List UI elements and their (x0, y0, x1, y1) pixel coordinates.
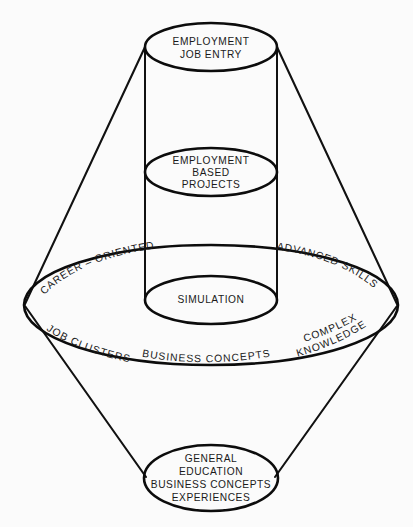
simulation-ellipse-group: SIMULATION (145, 276, 277, 324)
middle-ellipse-label-line2: BASED (192, 167, 229, 178)
middle-ellipse-label-line3: PROJECTS (182, 179, 241, 190)
band-label-career-oriented-text: CAREER – ORIENTED (38, 239, 155, 296)
band-label-business-concepts: BUSINESS CONCEPTS (142, 347, 272, 364)
top-ellipse-label-line2: JOB ENTRY (180, 49, 242, 60)
middle-ellipse-group: EMPLOYMENT BASED PROJECTS (145, 148, 277, 196)
bottom-ellipse-label-line4: EXPERIENCES (172, 492, 251, 503)
diagram-canvas: EMPLOYMENT JOB ENTRY EMPLOYMENT BASED PR… (0, 0, 413, 527)
top-ellipse-group: EMPLOYMENT JOB ENTRY (145, 23, 277, 71)
band-label-job-clusters: JOB CLUSTERS (45, 322, 132, 364)
band-label-business-concepts-text: BUSINESS CONCEPTS (142, 347, 272, 364)
middle-ellipse-label-line1: EMPLOYMENT (173, 155, 250, 166)
band-label-advanced-skills-text: ADVANCED SKILLS (276, 240, 380, 290)
bottom-ellipse-group: GENERAL EDUCATION BUSINESS CONCEPTS EXPE… (144, 445, 278, 511)
band-label-career-oriented: CAREER – ORIENTED (38, 239, 155, 296)
bottom-ellipse-label-line1: GENERAL (185, 453, 238, 464)
band-label-advanced-skills: ADVANCED SKILLS (276, 240, 380, 290)
simulation-label: SIMULATION (177, 294, 244, 305)
top-ellipse (145, 23, 277, 71)
bottom-ellipse-label-line2: EDUCATION (179, 466, 243, 477)
cone-diagram-svg: EMPLOYMENT JOB ENTRY EMPLOYMENT BASED PR… (0, 0, 413, 527)
top-ellipse-label-line1: EMPLOYMENT (173, 36, 250, 47)
band-label-job-clusters-text: JOB CLUSTERS (45, 322, 132, 364)
bottom-ellipse-label-line3: BUSINESS CONCEPTS (151, 479, 271, 490)
